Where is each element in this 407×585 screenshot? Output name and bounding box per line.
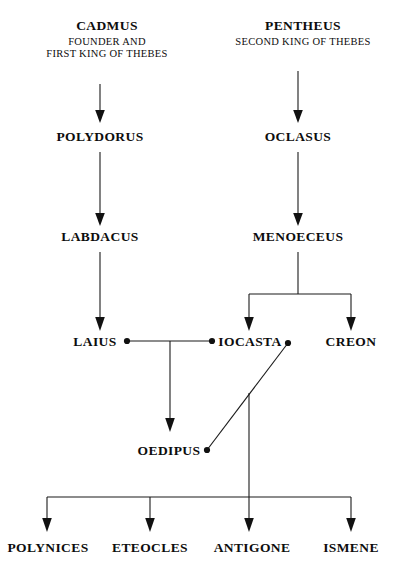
node-cadmus-name: CADMUS	[46, 18, 167, 34]
node-eteocles: ETEOCLES	[112, 540, 188, 556]
node-cadmus: CADMUS FOUNDER AND FIRST KING OF THEBES	[46, 18, 167, 61]
node-menoeceus-name: MENOECEUS	[253, 229, 344, 245]
node-cadmus-subtitle-line1: FOUNDER AND	[46, 36, 167, 48]
node-oedipus: OEDIPUS	[138, 443, 201, 459]
node-oedipus-name: OEDIPUS	[138, 443, 201, 459]
node-laius: LAIUS	[73, 334, 116, 350]
node-laius-name: LAIUS	[73, 334, 116, 350]
node-oclasus: OCLASUS	[265, 129, 332, 145]
edge-oclasus-menoeceus	[293, 152, 303, 226]
node-menoeceus: MENOECEUS	[253, 229, 344, 245]
node-oclasus-name: OCLASUS	[265, 129, 332, 145]
edge-menoeceus-children	[244, 252, 356, 331]
node-polynices: POLYNICES	[7, 540, 88, 556]
node-iocasta: IOCASTA	[218, 334, 281, 350]
node-pentheus-subtitle: SECOND KING OF THEBES	[235, 36, 370, 48]
edge-labdacus-laius	[95, 252, 105, 331]
node-antigone-name: ANTIGONE	[214, 540, 291, 556]
connector-layer	[0, 0, 407, 585]
genealogy-diagram: CADMUS FOUNDER AND FIRST KING OF THEBES …	[0, 0, 407, 585]
edge-oedipus-children	[42, 393, 356, 532]
node-polynices-name: POLYNICES	[7, 540, 88, 556]
node-creon-name: CREON	[326, 334, 377, 350]
node-labdacus-name: LABDACUS	[61, 229, 138, 245]
node-antigone: ANTIGONE	[214, 540, 291, 556]
node-iocasta-name: IOCASTA	[218, 334, 281, 350]
node-labdacus: LABDACUS	[61, 229, 138, 245]
edge-laius-iocasta-oedipus	[165, 341, 175, 432]
node-cadmus-subtitle-line2: FIRST KING OF THEBES	[46, 48, 167, 60]
edge-laius-iocasta-marriage	[124, 338, 215, 344]
node-pentheus-name: PENTHEUS	[235, 18, 370, 34]
node-ismene: ISMENE	[323, 540, 379, 556]
node-polydorus-name: POLYDORUS	[56, 129, 143, 145]
node-pentheus: PENTHEUS SECOND KING OF THEBES	[235, 18, 370, 48]
node-creon: CREON	[326, 334, 377, 350]
edge-cadmus-polydorus	[95, 84, 105, 123]
node-cadmus-subtitle: FOUNDER AND FIRST KING OF THEBES	[46, 36, 167, 61]
edge-iocasta-oedipus-marriage	[204, 340, 291, 453]
node-polydorus: POLYDORUS	[56, 129, 143, 145]
edge-polydorus-labdacus	[95, 152, 105, 226]
node-pentheus-subtitle-line1: SECOND KING OF THEBES	[235, 36, 370, 48]
edge-pentheus-oclasus	[293, 71, 303, 123]
node-eteocles-name: ETEOCLES	[112, 540, 188, 556]
node-ismene-name: ISMENE	[323, 540, 379, 556]
